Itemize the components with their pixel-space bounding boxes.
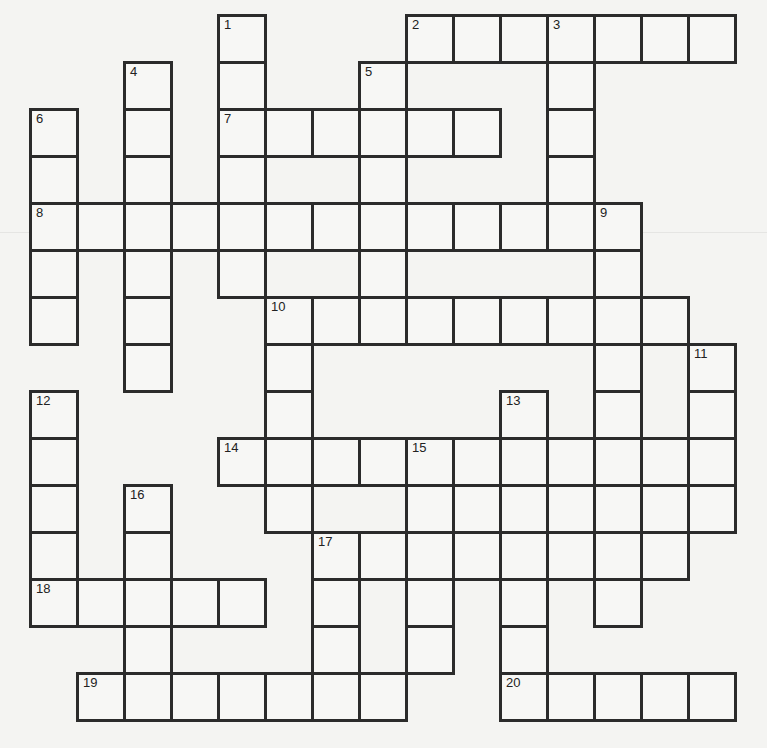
crossword-cell[interactable]	[593, 672, 643, 722]
crossword-cell[interactable]	[405, 531, 455, 581]
crossword-cell[interactable]	[452, 202, 502, 252]
crossword-cell[interactable]	[311, 672, 361, 722]
crossword-cell[interactable]	[311, 578, 361, 628]
crossword-cell[interactable]	[499, 625, 549, 675]
crossword-cell[interactable]	[640, 437, 690, 487]
crossword-cell[interactable]	[311, 625, 361, 675]
crossword-cell[interactable]	[170, 578, 220, 628]
crossword-cell[interactable]	[593, 249, 643, 299]
crossword-cell[interactable]	[358, 437, 408, 487]
crossword-cell[interactable]	[452, 437, 502, 487]
crossword-cell[interactable]	[499, 531, 549, 581]
crossword-cell[interactable]	[687, 484, 737, 534]
crossword-cell[interactable]	[358, 672, 408, 722]
crossword-cell[interactable]	[593, 437, 643, 487]
crossword-cell-10[interactable]: 10	[264, 296, 314, 346]
crossword-cell[interactable]	[358, 249, 408, 299]
crossword-cell[interactable]	[311, 108, 361, 158]
crossword-cell[interactable]	[123, 249, 173, 299]
crossword-cell[interactable]	[593, 343, 643, 393]
crossword-cell[interactable]	[123, 625, 173, 675]
crossword-cell[interactable]	[29, 155, 79, 205]
crossword-cell[interactable]	[499, 484, 549, 534]
crossword-cell[interactable]	[358, 108, 408, 158]
crossword-cell[interactable]	[593, 578, 643, 628]
crossword-cell-4[interactable]: 4	[123, 61, 173, 111]
crossword-cell[interactable]	[29, 296, 79, 346]
crossword-cell[interactable]	[499, 14, 549, 64]
crossword-cell[interactable]	[358, 155, 408, 205]
crossword-cell[interactable]	[593, 484, 643, 534]
crossword-cell[interactable]	[405, 296, 455, 346]
crossword-cell[interactable]	[546, 484, 596, 534]
crossword-cell[interactable]	[405, 484, 455, 534]
crossword-cell-12[interactable]: 12	[29, 390, 79, 440]
crossword-cell-13[interactable]: 13	[499, 390, 549, 440]
crossword-cell[interactable]	[593, 296, 643, 346]
crossword-cell[interactable]	[123, 296, 173, 346]
crossword-cell[interactable]	[264, 108, 314, 158]
crossword-cell[interactable]	[217, 202, 267, 252]
crossword-cell[interactable]	[499, 296, 549, 346]
crossword-cell[interactable]	[640, 296, 690, 346]
crossword-cell[interactable]	[640, 14, 690, 64]
crossword-cell-15[interactable]: 15	[405, 437, 455, 487]
crossword-cell[interactable]	[640, 531, 690, 581]
crossword-cell[interactable]	[123, 202, 173, 252]
crossword-cell[interactable]	[358, 202, 408, 252]
crossword-cell[interactable]	[311, 202, 361, 252]
crossword-cell-14[interactable]: 14	[217, 437, 267, 487]
crossword-cell[interactable]	[123, 578, 173, 628]
crossword-cell[interactable]	[640, 484, 690, 534]
crossword-cell[interactable]	[405, 578, 455, 628]
crossword-cell[interactable]	[358, 296, 408, 346]
crossword-cell[interactable]	[264, 484, 314, 534]
crossword-cell[interactable]	[593, 531, 643, 581]
crossword-cell-18[interactable]: 18	[29, 578, 79, 628]
crossword-cell[interactable]	[546, 672, 596, 722]
crossword-cell[interactable]	[452, 14, 502, 64]
crossword-cell[interactable]	[546, 108, 596, 158]
crossword-cell[interactable]	[687, 437, 737, 487]
crossword-cell[interactable]	[123, 108, 173, 158]
crossword-cell[interactable]	[264, 437, 314, 487]
crossword-cell[interactable]	[687, 14, 737, 64]
crossword-cell[interactable]	[546, 61, 596, 111]
crossword-cell-2[interactable]: 2	[405, 14, 455, 64]
crossword-cell[interactable]	[217, 578, 267, 628]
crossword-cell[interactable]	[311, 437, 361, 487]
crossword-cell[interactable]	[546, 437, 596, 487]
crossword-cell-11[interactable]: 11	[687, 343, 737, 393]
crossword-cell[interactable]	[170, 202, 220, 252]
crossword-cell[interactable]	[217, 61, 267, 111]
crossword-cell[interactable]	[499, 202, 549, 252]
crossword-cell[interactable]	[123, 531, 173, 581]
crossword-cell[interactable]	[687, 390, 737, 440]
crossword-cell[interactable]	[452, 484, 502, 534]
crossword-cell[interactable]	[499, 437, 549, 487]
crossword-cell[interactable]	[76, 578, 126, 628]
crossword-cell[interactable]	[311, 296, 361, 346]
crossword-cell-20[interactable]: 20	[499, 672, 549, 722]
crossword-cell-8[interactable]: 8	[29, 202, 79, 252]
crossword-cell[interactable]	[452, 296, 502, 346]
crossword-cell[interactable]	[264, 202, 314, 252]
crossword-cell[interactable]	[217, 155, 267, 205]
crossword-cell[interactable]	[546, 296, 596, 346]
crossword-cell[interactable]	[546, 155, 596, 205]
crossword-cell-17[interactable]: 17	[311, 531, 361, 581]
crossword-cell[interactable]	[546, 202, 596, 252]
crossword-cell[interactable]	[593, 390, 643, 440]
crossword-cell[interactable]	[29, 531, 79, 581]
crossword-cell[interactable]	[452, 108, 502, 158]
crossword-cell[interactable]	[264, 390, 314, 440]
crossword-cell[interactable]	[405, 202, 455, 252]
crossword-cell[interactable]	[358, 531, 408, 581]
crossword-cell[interactable]	[123, 672, 173, 722]
crossword-cell[interactable]	[123, 343, 173, 393]
crossword-cell-6[interactable]: 6	[29, 108, 79, 158]
crossword-cell-19[interactable]: 19	[76, 672, 126, 722]
crossword-cell-9[interactable]: 9	[593, 202, 643, 252]
crossword-cell[interactable]	[217, 249, 267, 299]
crossword-cell[interactable]	[546, 531, 596, 581]
